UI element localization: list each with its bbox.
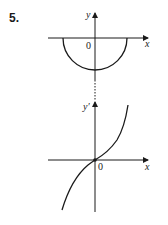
top-graph: y x 0 [48, 9, 150, 80]
bottom-graph: y′ x 0 [48, 101, 150, 212]
bottom-x-label: x [144, 161, 150, 172]
graphs: y x 0 y′ x 0 [0, 0, 168, 225]
top-origin-label: 0 [86, 40, 91, 51]
top-x-label: x [144, 38, 150, 49]
top-y-label: y [85, 9, 91, 20]
bottom-origin-label: 0 [98, 161, 103, 172]
bottom-y-label: y′ [82, 101, 90, 112]
origin-point [93, 158, 97, 162]
